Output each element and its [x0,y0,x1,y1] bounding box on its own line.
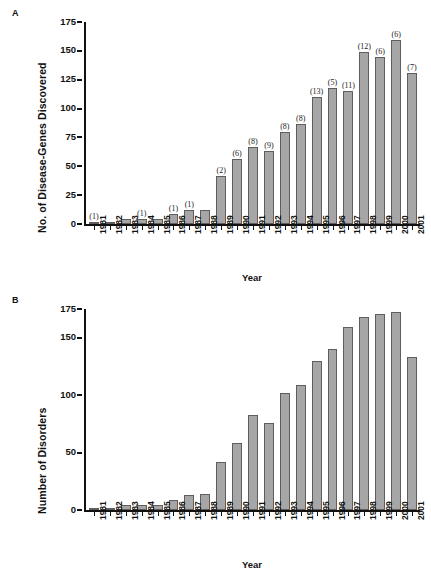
bar-item[interactable]: (6) [232,22,242,224]
bar-item[interactable]: (8) [280,22,290,224]
bar-item[interactable]: (11) [343,22,353,224]
bar-1995[interactable] [312,361,322,510]
bar-1998[interactable] [359,52,369,224]
x-tick-label-1988: 1988 [209,501,219,520]
bar-1999[interactable] [375,314,385,510]
x-tick-1997 [348,226,349,230]
x-tick-1982 [110,512,111,516]
x-tick-1998 [364,226,365,230]
bar-item[interactable] [232,309,242,510]
bar-item[interactable]: (6) [375,22,385,224]
bar-item[interactable] [169,309,179,510]
x-tick-label-1991: 1991 [257,215,267,234]
bar-1996[interactable] [328,88,338,224]
bar-item[interactable]: (8) [296,22,306,224]
bar-item[interactable] [153,309,163,510]
bar-2001[interactable] [407,73,417,224]
bar-1999[interactable] [375,57,385,224]
bar-item[interactable] [121,309,131,510]
x-tick-label-2000: 2000 [400,215,410,234]
x-tick-1985 [158,226,159,230]
x-tick-1982 [110,226,111,230]
bar-item[interactable]: (8) [248,22,258,224]
bar-item[interactable] [137,309,147,510]
panel-b-bars [86,309,420,510]
x-tick-1993 [285,512,286,516]
x-tick-label-2001: 2001 [416,501,426,520]
x-tick-1984 [142,512,143,516]
x-tick-label-1992: 1992 [273,215,283,234]
bar-item[interactable]: (7) [407,22,417,224]
x-tick-1990 [237,226,238,230]
bar-1996[interactable] [328,349,338,510]
bar-item[interactable] [200,22,210,224]
x-tick-label-1997: 1997 [352,215,362,234]
bar-item[interactable] [343,309,353,510]
bar-item[interactable] [328,309,338,510]
bar-item[interactable] [184,309,194,510]
x-tick-1985 [158,512,159,516]
bar-item[interactable]: (1) [137,22,147,224]
bar-item[interactable]: (1) [169,22,179,224]
bar-1998[interactable] [359,317,369,510]
x-tick-label-1987: 1987 [193,501,203,520]
x-tick-1988 [205,512,206,516]
x-tick-1983 [126,512,127,516]
x-tick-1988 [205,226,206,230]
bar-item[interactable] [280,309,290,510]
bar-2000[interactable] [391,40,401,224]
bar-item[interactable] [89,309,99,510]
bar-item[interactable]: (2) [216,22,226,224]
bar-item[interactable] [407,309,417,510]
bar-item[interactable]: (6) [391,22,401,224]
bar-item[interactable] [153,22,163,224]
bar-item[interactable]: (1) [89,22,99,224]
bar-1997[interactable] [343,91,353,224]
x-tick-label-1996: 1996 [337,215,347,234]
bar-item[interactable] [391,309,401,510]
bar-2000[interactable] [391,312,401,510]
x-tick-label-1983: 1983 [130,215,140,234]
bar-item[interactable] [121,22,131,224]
bar-1992[interactable] [264,151,274,224]
bar-item[interactable] [312,309,322,510]
x-tick-label-1989: 1989 [225,215,235,234]
x-tick-1994 [301,226,302,230]
bar-item[interactable] [375,309,385,510]
bar-item[interactable]: (1) [184,22,194,224]
panel-b-x-axis-title: Year [84,559,420,570]
bar-annotation-1997: (11) [342,81,355,90]
bar-item[interactable] [264,309,274,510]
panel-b-label: B [12,295,19,305]
panel-a-y-tick-mark [77,79,82,81]
bar-1994[interactable] [296,385,306,510]
bar-item[interactable]: (13) [312,22,322,224]
bar-item[interactable] [200,309,210,510]
bar-1993[interactable] [280,393,290,510]
bar-item[interactable] [105,309,115,510]
bar-1993[interactable] [280,132,290,224]
bar-1992[interactable] [264,423,274,510]
bar-annotation-1986: (1) [169,204,178,213]
bar-1991[interactable] [248,415,258,510]
bar-annotation-1998: (12) [358,42,371,51]
panel-a-y-tick-mark [77,21,82,23]
bar-1990[interactable] [232,443,242,510]
bar-item[interactable] [359,309,369,510]
bar-2001[interactable] [407,357,417,510]
bar-item[interactable] [296,309,306,510]
x-tick-label-1994: 1994 [305,501,315,520]
bar-1991[interactable] [248,147,258,224]
bar-item[interactable]: (9) [264,22,274,224]
bar-item[interactable]: (12) [359,22,369,224]
x-tick-1984 [142,226,143,230]
bar-item[interactable] [248,309,258,510]
bar-item[interactable]: (5) [328,22,338,224]
bar-annotation-2000: (6) [391,30,400,39]
bar-1997[interactable] [343,327,353,510]
bar-item[interactable] [105,22,115,224]
panel-b-y-tick-mark [77,337,82,339]
bar-1995[interactable] [312,97,322,224]
bar-1994[interactable] [296,124,306,224]
bar-item[interactable] [216,309,226,510]
